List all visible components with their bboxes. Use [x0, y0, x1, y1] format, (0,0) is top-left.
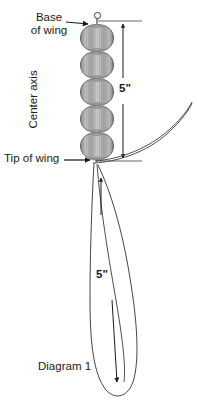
label-base-of-wing: Base of wing: [18, 11, 80, 37]
bead-5: [81, 132, 114, 161]
bead-1: [81, 24, 114, 52]
bead-3: [81, 78, 114, 106]
label-center-axis: Center axis: [27, 56, 40, 142]
label-dimension-lower: 5": [96, 268, 108, 281]
diagram-title: Diagram 1: [38, 360, 91, 373]
bead-2: [81, 51, 114, 79]
diagram-canvas: Base of wing Tip of wing Center axis 5" …: [0, 0, 197, 413]
label-dimension-upper: 5": [119, 82, 131, 95]
eye-loop-icon: [94, 12, 100, 18]
bead-stack: [81, 24, 114, 161]
label-tip-of-wing: Tip of wing: [4, 152, 59, 165]
bead-4: [81, 105, 114, 133]
